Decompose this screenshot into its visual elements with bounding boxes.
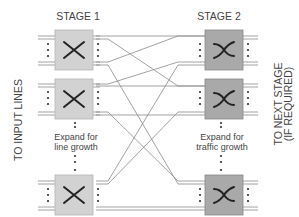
stage1-switches: Expand for line growth [38,30,100,215]
stage1-expand-line1: Expand for [54,132,98,142]
stage2-expand-line2: traffic growth [196,142,247,152]
switch-diagram: STAGE 1 STAGE 2 TO INPUT LINES TO NEXT S… [0,0,299,217]
stage2-title: STAGE 2 [197,10,241,22]
interconnect-lines [96,36,205,210]
stage2-switches: Expand for traffic growth [196,30,258,215]
stage1-title: STAGE 1 [56,10,100,22]
right-label-line2: (IF REQUIRED) [282,67,294,142]
stage2-expand-line1: Expand for [200,132,244,142]
left-label: TO INPUT LINES [12,79,24,161]
stage1-expand-line2: line growth [54,142,98,152]
